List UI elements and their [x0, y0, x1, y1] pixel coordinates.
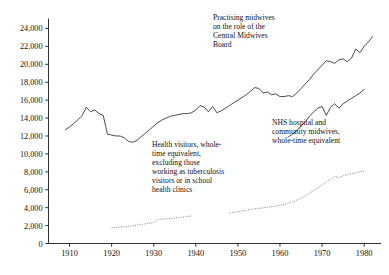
- series-line-2: [112, 216, 192, 228]
- x-tick-label: 1950: [230, 249, 247, 258]
- y-tick-label: 4,000: [24, 204, 42, 213]
- y-axis: 02,0004,0006,0008,00010,00012,00014,0001…: [20, 19, 49, 249]
- y-tick-label: 2,000: [24, 222, 42, 231]
- x-tick-label: 1940: [187, 249, 204, 258]
- y-tick-label: 8,000: [24, 168, 42, 177]
- x-tick-label: 1910: [61, 249, 78, 258]
- annotation-health-visitors: Health visitors, whole- time equivalent,…: [152, 140, 262, 195]
- y-tick-label: 6,000: [24, 186, 42, 195]
- x-tick-label: 1970: [314, 249, 331, 258]
- annotation-nhs-midwives: NHS hospital and community midwives, who…: [272, 118, 384, 145]
- y-tick-label: 0: [38, 240, 42, 249]
- chart-container: 02,0004,0006,0008,00010,00012,00014,0001…: [0, 0, 389, 275]
- annotation-practising-midwives: Practising midwives on the role of the C…: [213, 13, 321, 49]
- x-axis: 19101920193019401950196019701980: [49, 244, 382, 259]
- x-tick-label: 1920: [103, 249, 120, 258]
- x-tick-label: 1930: [145, 249, 162, 258]
- x-tick-label: 1960: [272, 249, 289, 258]
- y-tick-label: 20,000: [20, 60, 43, 69]
- y-tick-label: 10,000: [20, 150, 43, 159]
- y-tick-label: 12,000: [20, 132, 43, 141]
- y-tick-label: 14,000: [20, 114, 43, 123]
- y-tick-label: 16,000: [20, 96, 43, 105]
- y-tick-label: 18,000: [20, 78, 43, 87]
- y-tick-label: 22,000: [20, 42, 43, 51]
- y-tick-label: 24,000: [20, 24, 43, 33]
- x-tick-label: 1980: [356, 249, 373, 258]
